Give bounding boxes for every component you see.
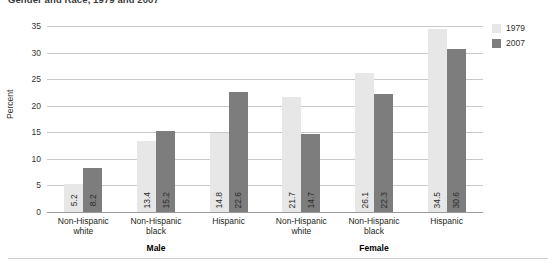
bar-value-label: 14.8 (215, 191, 224, 208)
x-axis-category-line: black (111, 226, 201, 236)
gridline-35 (47, 26, 483, 27)
bar[interactable]: 30.6 (447, 49, 466, 212)
bar-group: 14.822.6 (210, 26, 248, 212)
y-tick-label-5: 5 (19, 180, 41, 190)
bar-group: 34.530.6 (428, 26, 466, 212)
gridline-15 (47, 132, 483, 133)
x-axis-group-label-female: Female (314, 243, 434, 253)
y-tick-label-10: 10 (19, 154, 41, 164)
legend-item-1979[interactable]: 1979 (492, 23, 525, 33)
bar[interactable]: 14.8 (210, 133, 229, 212)
bar-value-label: 22.6 (234, 191, 243, 208)
x-axis-group-label-male: Male (96, 243, 216, 253)
x-axis-category-label: Hispanic (402, 216, 492, 226)
bar-group: 26.122.3 (355, 26, 393, 212)
legend-label-1979: 1979 (506, 23, 525, 33)
bar[interactable]: 15.2 (156, 131, 175, 212)
chart-title: Gender and Race, 1979 and 2007 (8, 0, 159, 5)
bar-value-label: 21.7 (288, 191, 297, 208)
y-tick-label-35: 35 (19, 21, 41, 31)
bar-group: 5.28.2 (64, 26, 102, 212)
bar[interactable]: 8.2 (83, 168, 102, 212)
gridline-0 (47, 212, 483, 213)
bar-value-label: 8.2 (89, 194, 98, 206)
bar[interactable]: 21.7 (282, 97, 301, 212)
bar-value-label: 14.7 (307, 191, 316, 208)
y-tick-label-25: 25 (19, 74, 41, 84)
gridline-30 (47, 53, 483, 54)
gridline-20 (47, 106, 483, 107)
legend-item-2007[interactable]: 2007 (492, 38, 525, 48)
x-axis-category-line: Hispanic (402, 216, 492, 226)
bar-value-label: 26.1 (360, 191, 369, 208)
bar[interactable]: 26.1 (355, 73, 374, 212)
bottom-divider (8, 258, 548, 259)
bar-value-label: 5.2 (70, 194, 79, 206)
bar[interactable]: 13.4 (137, 141, 156, 212)
bar[interactable]: 5.2 (64, 184, 83, 212)
chart-legend: 1979 2007 (492, 23, 525, 53)
gridline-5 (47, 185, 483, 186)
gridline-25 (47, 79, 483, 80)
bar-group: 13.415.2 (137, 26, 175, 212)
gridline-10 (47, 159, 483, 160)
legend-swatch-2007-icon (492, 39, 501, 48)
bar-value-label: 22.3 (379, 191, 388, 208)
bar[interactable]: 14.7 (301, 134, 320, 212)
bar-group: 21.714.7 (282, 26, 320, 212)
y-tick-label-30: 30 (19, 48, 41, 58)
legend-swatch-1979-icon (492, 24, 501, 33)
bar[interactable]: 22.3 (374, 94, 393, 213)
x-axis-category-line: black (329, 226, 419, 236)
bar-value-label: 34.5 (433, 191, 442, 208)
y-axis-title: Percent (5, 90, 15, 119)
bar-value-label: 15.2 (161, 191, 170, 208)
y-tick-label-15: 15 (19, 127, 41, 137)
bar-value-label: 13.4 (142, 191, 151, 208)
plot-area: 051015202530355.28.213.415.214.822.621.7… (47, 26, 483, 212)
y-tick-label-20: 20 (19, 101, 41, 111)
bar[interactable]: 34.5 (428, 29, 447, 212)
legend-label-2007: 2007 (506, 38, 525, 48)
bar-value-label: 30.6 (452, 191, 461, 208)
bar[interactable]: 22.6 (229, 92, 248, 212)
